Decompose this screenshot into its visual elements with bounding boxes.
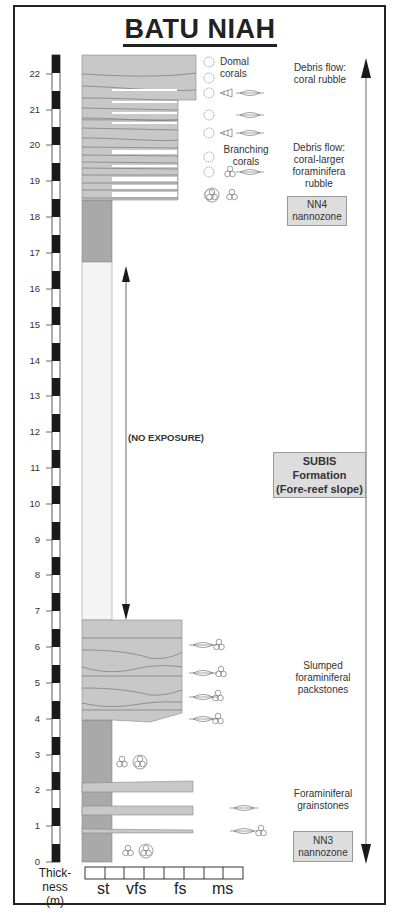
- zone-line: NN3: [294, 835, 352, 847]
- tick-18: 18: [20, 211, 40, 222]
- domal-corals-line2: corals: [220, 68, 249, 80]
- thickness-label-line2: ness: [35, 880, 75, 894]
- facies-line: Debris flow:: [290, 62, 350, 74]
- gastropod-cone-icons: [220, 89, 232, 137]
- zone-line: nannozone: [288, 211, 346, 223]
- nn4-nannozone-box: NN4 nannozone: [287, 196, 347, 226]
- domal-coral-icons: [204, 57, 214, 200]
- facies-line: packstones: [290, 684, 356, 696]
- grain-size-scale: [85, 867, 243, 879]
- domal-corals-line1: Domal: [220, 56, 249, 68]
- subis-formation-box: SUBIS Formation (Fore-reef slope): [273, 452, 366, 498]
- facies-debris-coral-forams: Debris flow: coral-larger foraminifera r…: [286, 142, 352, 190]
- foraminifera-lens-icons: [189, 91, 264, 834]
- thickness-label-line1: Thick-: [35, 866, 75, 880]
- facies-foram-grainstones: Foraminiferal grainstones: [290, 788, 356, 812]
- log-column: [82, 55, 196, 862]
- tick-22: 22: [20, 68, 40, 79]
- tick-7: 7: [20, 605, 40, 616]
- tick-20: 20: [20, 139, 40, 150]
- nn3-nannozone-box: NN3 nannozone: [293, 831, 353, 862]
- tick-19: 19: [20, 175, 40, 186]
- tick-10: 10: [20, 498, 40, 509]
- facies-line: Debris flow:: [286, 142, 352, 154]
- grain-size-ms: ms: [212, 880, 233, 898]
- tick-16: 16: [20, 283, 40, 294]
- tick-21: 21: [20, 104, 40, 115]
- tick-14: 14: [20, 355, 40, 366]
- facies-line: Foraminiferal: [290, 788, 356, 800]
- zone-line: (Fore-reef slope): [274, 482, 365, 496]
- tick-4: 4: [20, 713, 40, 724]
- facies-line: foraminiferal: [290, 672, 356, 684]
- tick-13: 13: [20, 390, 40, 401]
- facies-line: foraminifera: [286, 166, 352, 178]
- facies-line: coral rubble: [290, 74, 350, 86]
- zone-line: SUBIS: [274, 454, 365, 468]
- branching-corals-line2: corals: [220, 156, 272, 168]
- grain-size-fs: fs: [174, 880, 186, 898]
- zone-line: NN4: [288, 199, 346, 211]
- tick-9: 9: [20, 534, 40, 545]
- facies-debris-coral-rubble: Debris flow: coral rubble: [290, 62, 350, 86]
- tick-6: 6: [20, 641, 40, 652]
- tick-1: 1: [20, 820, 40, 831]
- facies-slumped-packstones: Slumped foraminiferal packstones: [290, 660, 356, 696]
- thickness-label-line3: (m): [35, 894, 75, 908]
- foram-cluster-icons: [117, 166, 267, 858]
- no-exposure-label: (NO EXPOSURE): [128, 432, 204, 444]
- branching-corals-line1: Branching: [220, 144, 272, 156]
- zone-line: nannozone: [294, 847, 352, 859]
- facies-line: grainstones: [290, 800, 356, 812]
- tick-11: 11: [20, 462, 40, 473]
- tick-8: 8: [20, 569, 40, 580]
- zone-line: Formation: [274, 468, 365, 482]
- branching-corals-label: Branching corals: [220, 144, 272, 168]
- tick-15: 15: [20, 319, 40, 330]
- tick-17: 17: [20, 247, 40, 258]
- tick-2: 2: [20, 784, 40, 795]
- domal-corals-label: Domal corals: [220, 56, 249, 80]
- thickness-scale-bar: [46, 55, 60, 862]
- tick-12: 12: [20, 426, 40, 437]
- facies-line: rubble: [286, 178, 352, 190]
- facies-line: Slumped: [290, 660, 356, 672]
- grain-size-vfs: vfs: [126, 880, 146, 898]
- facies-line: coral-larger: [286, 154, 352, 166]
- thickness-axis-label: Thick- ness (m): [35, 866, 75, 908]
- grain-size-st: st: [97, 880, 109, 898]
- tick-5: 5: [20, 677, 40, 688]
- tick-3: 3: [20, 749, 40, 760]
